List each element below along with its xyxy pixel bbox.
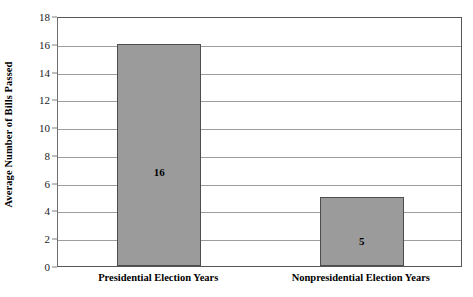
plot-area: 165	[57, 17, 462, 267]
y-axis-tick-label: 14	[20, 67, 50, 78]
y-axis-tick-mark	[52, 72, 57, 73]
y-axis-tick-label: 4	[20, 206, 50, 217]
y-axis-tick-mark	[52, 17, 57, 18]
bar-value-label: 16	[118, 166, 200, 178]
y-axis-tick-mark	[52, 267, 57, 268]
y-axis-title: Average Number of Bills Passed	[0, 0, 16, 268]
y-axis-tick-labels: 024681012141618	[20, 17, 50, 267]
y-axis-tick-mark	[52, 239, 57, 240]
bar-value-label: 5	[321, 235, 403, 247]
y-axis-tick-label: 10	[20, 123, 50, 134]
y-axis-tick-mark	[52, 183, 57, 184]
y-axis-tick-label: 12	[20, 95, 50, 106]
bars-layer: 165	[58, 18, 461, 266]
y-axis-tick-mark	[52, 155, 57, 156]
y-axis-tick-label: 6	[20, 178, 50, 189]
y-axis-tick-mark	[52, 128, 57, 129]
x-axis-category-label: Presidential Election Years	[57, 272, 260, 283]
y-axis-tick-mark	[52, 211, 57, 212]
x-axis-category-labels: Presidential Election YearsNonpresidenti…	[57, 272, 462, 292]
x-axis-category-label: Nonpresidential Election Years	[260, 272, 463, 283]
y-axis-title-text: Average Number of Bills Passed	[3, 61, 14, 207]
y-axis-tick-mark	[52, 44, 57, 45]
y-axis-tick-label: 0	[20, 262, 50, 273]
y-axis-tick-label: 8	[20, 150, 50, 161]
bar-chart: Average Number of Bills Passed 024681012…	[0, 0, 473, 297]
y-axis-tick-label: 2	[20, 234, 50, 245]
bar: 16	[117, 44, 201, 266]
y-axis-tick-label: 16	[20, 39, 50, 50]
y-axis-tick-mark	[52, 100, 57, 101]
bar: 5	[320, 197, 404, 266]
y-axis-tick-label: 18	[20, 12, 50, 23]
